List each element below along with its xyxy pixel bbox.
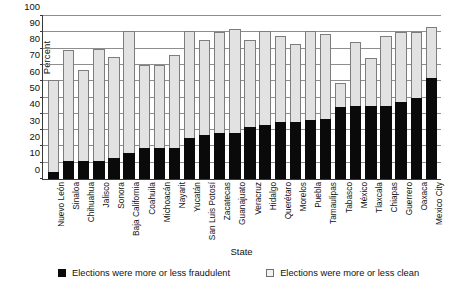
bar-segment-fraudulent[interactable] bbox=[169, 148, 180, 179]
bar-segment-clean[interactable] bbox=[229, 29, 240, 133]
bar-segment-fraudulent[interactable] bbox=[214, 133, 225, 179]
stacked-bar[interactable] bbox=[214, 32, 225, 179]
bar-segment-clean[interactable] bbox=[78, 70, 89, 161]
bar-group[interactable] bbox=[106, 16, 121, 179]
bar-group[interactable] bbox=[258, 16, 273, 179]
stacked-bar[interactable] bbox=[259, 31, 270, 179]
bar-segment-fraudulent[interactable] bbox=[350, 106, 361, 179]
bar-group[interactable] bbox=[61, 16, 76, 179]
bar-group[interactable] bbox=[167, 16, 182, 179]
bar-segment-fraudulent[interactable] bbox=[199, 135, 210, 179]
bar-segment-clean[interactable] bbox=[199, 40, 210, 135]
bar-group[interactable] bbox=[182, 16, 197, 179]
bar-group[interactable] bbox=[394, 16, 409, 179]
stacked-bar[interactable] bbox=[93, 49, 104, 179]
bar-segment-fraudulent[interactable] bbox=[365, 106, 376, 179]
stacked-bar[interactable] bbox=[108, 57, 119, 179]
bar-group[interactable] bbox=[318, 16, 333, 179]
bar-segment-fraudulent[interactable] bbox=[290, 122, 301, 179]
stacked-bar[interactable] bbox=[63, 50, 74, 179]
bar-group[interactable] bbox=[46, 16, 61, 179]
bar-segment-clean[interactable] bbox=[63, 50, 74, 161]
bar-segment-clean[interactable] bbox=[380, 36, 391, 106]
bar-group[interactable] bbox=[227, 16, 242, 179]
bar-segment-clean[interactable] bbox=[244, 40, 255, 126]
stacked-bar[interactable] bbox=[78, 70, 89, 179]
bar-group[interactable] bbox=[303, 16, 318, 179]
bar-segment-fraudulent[interactable] bbox=[395, 102, 406, 179]
bar-segment-fraudulent[interactable] bbox=[335, 107, 346, 179]
bar-segment-clean[interactable] bbox=[108, 57, 119, 158]
stacked-bar[interactable] bbox=[154, 65, 165, 179]
stacked-bar[interactable] bbox=[184, 31, 195, 179]
bar-segment-fraudulent[interactable] bbox=[320, 119, 331, 179]
bar-group[interactable] bbox=[152, 16, 167, 179]
bar-segment-fraudulent[interactable] bbox=[123, 153, 134, 179]
bar-segment-clean[interactable] bbox=[214, 32, 225, 133]
stacked-bar[interactable] bbox=[275, 36, 286, 179]
stacked-bar[interactable] bbox=[411, 32, 422, 179]
bar-segment-clean[interactable] bbox=[426, 27, 437, 78]
bar-segment-clean[interactable] bbox=[93, 49, 104, 161]
bar-segment-clean[interactable] bbox=[259, 31, 270, 126]
bar-segment-clean[interactable] bbox=[48, 80, 59, 173]
stacked-bar[interactable] bbox=[244, 40, 255, 179]
bar-segment-fraudulent[interactable] bbox=[426, 78, 437, 179]
bar-segment-clean[interactable] bbox=[411, 32, 422, 97]
bar-segment-clean[interactable] bbox=[169, 55, 180, 148]
stacked-bar[interactable] bbox=[123, 31, 134, 179]
stacked-bar[interactable] bbox=[169, 55, 180, 179]
stacked-bar[interactable] bbox=[320, 34, 331, 179]
stacked-bar[interactable] bbox=[229, 29, 240, 179]
bar-segment-clean[interactable] bbox=[335, 83, 346, 107]
bar-group[interactable] bbox=[288, 16, 303, 179]
stacked-bar[interactable] bbox=[380, 36, 391, 179]
bar-segment-clean[interactable] bbox=[184, 31, 195, 139]
bar-segment-clean[interactable] bbox=[320, 34, 331, 119]
bar-group[interactable] bbox=[348, 16, 363, 179]
bar-segment-fraudulent[interactable] bbox=[380, 106, 391, 179]
bar-group[interactable] bbox=[76, 16, 91, 179]
bar-segment-clean[interactable] bbox=[154, 65, 165, 148]
bar-segment-clean[interactable] bbox=[290, 44, 301, 122]
bar-segment-fraudulent[interactable] bbox=[184, 138, 195, 179]
bar-group[interactable] bbox=[424, 16, 439, 179]
stacked-bar[interactable] bbox=[48, 80, 59, 179]
bar-segment-fraudulent[interactable] bbox=[229, 133, 240, 179]
bar-group[interactable] bbox=[378, 16, 393, 179]
bar-segment-fraudulent[interactable] bbox=[139, 148, 150, 179]
bar-segment-clean[interactable] bbox=[275, 36, 286, 122]
bar-segment-clean[interactable] bbox=[365, 58, 376, 105]
stacked-bar[interactable] bbox=[365, 58, 376, 179]
stacked-bar[interactable] bbox=[139, 65, 150, 179]
bar-group[interactable] bbox=[137, 16, 152, 179]
bar-group[interactable] bbox=[333, 16, 348, 179]
bar-segment-clean[interactable] bbox=[123, 31, 134, 153]
stacked-bar[interactable] bbox=[199, 40, 210, 179]
bar-group[interactable] bbox=[242, 16, 257, 179]
bar-group[interactable] bbox=[122, 16, 137, 179]
bar-segment-fraudulent[interactable] bbox=[108, 158, 119, 179]
bar-segment-fraudulent[interactable] bbox=[63, 161, 74, 179]
bar-segment-fraudulent[interactable] bbox=[244, 127, 255, 179]
bar-segment-fraudulent[interactable] bbox=[78, 161, 89, 179]
bar-group[interactable] bbox=[91, 16, 106, 179]
bar-segment-fraudulent[interactable] bbox=[93, 161, 104, 179]
stacked-bar[interactable] bbox=[335, 83, 346, 179]
stacked-bar[interactable] bbox=[305, 31, 316, 179]
bar-group[interactable] bbox=[273, 16, 288, 179]
bar-segment-fraudulent[interactable] bbox=[275, 122, 286, 179]
stacked-bar[interactable] bbox=[290, 44, 301, 179]
bar-group[interactable] bbox=[212, 16, 227, 179]
stacked-bar[interactable] bbox=[350, 42, 361, 179]
bar-segment-fraudulent[interactable] bbox=[305, 120, 316, 179]
bar-segment-fraudulent[interactable] bbox=[259, 125, 270, 179]
bar-group[interactable] bbox=[363, 16, 378, 179]
stacked-bar[interactable] bbox=[395, 32, 406, 179]
bar-segment-fraudulent[interactable] bbox=[154, 148, 165, 179]
bar-segment-fraudulent[interactable] bbox=[411, 98, 422, 179]
bar-segment-fraudulent[interactable] bbox=[48, 172, 59, 179]
bar-segment-clean[interactable] bbox=[350, 42, 361, 106]
stacked-bar[interactable] bbox=[426, 27, 437, 179]
bar-group[interactable] bbox=[409, 16, 424, 179]
